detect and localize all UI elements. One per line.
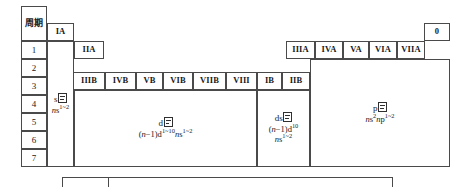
group-label-ivb: IVB (113, 76, 128, 86)
cjk-tofu-icon (283, 112, 292, 122)
period-header-label: 周期 (25, 18, 43, 28)
period-cell-1: 1 (21, 41, 47, 59)
group-label-zero: 0 (435, 27, 439, 37)
group-label-iva: IVA (322, 45, 337, 55)
block-config-p: ns2np1~2 (365, 115, 394, 125)
period-header-cell: 周期 (21, 6, 47, 41)
group-cell-viii: VIII (226, 72, 257, 90)
period-label-5: 5 (32, 117, 37, 127)
group-label-iiib: IIIB (81, 76, 97, 86)
bottom-bracket-divider (108, 178, 109, 187)
group-cell-vib: VIB (163, 72, 193, 90)
block-cell-d: d (n−1)d1~10ns1~2 (74, 90, 257, 167)
period-cell-5: 5 (21, 113, 47, 131)
block-cell-p: p ns2np1~2 (310, 59, 450, 167)
group-label-ia: IA (56, 27, 66, 37)
block-name-prefix-s: s (54, 94, 58, 104)
block-name-prefix-ds: ds (275, 113, 283, 123)
period-cell-6: 6 (21, 131, 47, 149)
block-config-d: (n−1)d1~10ns1~2 (139, 130, 193, 140)
period-cell-2: 2 (21, 59, 47, 77)
group-label-iia: IIA (82, 45, 95, 55)
group-label-vb: VB (143, 76, 155, 86)
period-label-4: 4 (32, 99, 37, 109)
period-label-1: 1 (32, 45, 37, 55)
group-cell-iva: IVA (315, 41, 343, 59)
group-cell-iiia: IIIA (286, 41, 315, 59)
group-cell-zero: 0 (424, 23, 450, 41)
group-label-via: VIA (375, 45, 391, 55)
block-name-ds: ds (275, 112, 293, 123)
period-label-2: 2 (32, 63, 37, 73)
group-cell-iib: IIB (282, 72, 310, 90)
group-cell-iia: IIA (74, 41, 104, 59)
group-cell-via: VIA (369, 41, 397, 59)
period-label-7: 7 (32, 153, 37, 163)
block-cell-ds: ds (n−1)d10 ns1~2 (257, 90, 310, 167)
block-config-ds-line2: ns1~2 (275, 135, 292, 145)
group-label-viii: VIII (233, 76, 249, 86)
group-label-viib: VIIB (200, 76, 219, 86)
group-cell-viib: VIIB (193, 72, 226, 90)
period-label-6: 6 (32, 135, 37, 145)
group-label-iiia: IIIA (292, 45, 308, 55)
cjk-tofu-icon (58, 93, 67, 103)
group-label-viia: VIIA (401, 45, 420, 55)
bottom-bracket (62, 177, 393, 187)
group-label-va: VA (350, 45, 361, 55)
group-cell-vb: VB (136, 72, 163, 90)
period-label-3: 3 (32, 81, 37, 91)
block-config-s: ns1~2 (52, 106, 69, 116)
period-cell-3: 3 (21, 77, 47, 95)
group-cell-ib: IB (257, 72, 282, 90)
group-cell-viia: VIIA (397, 41, 425, 59)
cjk-tofu-icon (378, 102, 387, 112)
group-cell-va: VA (343, 41, 369, 59)
group-cell-ia: IA (47, 23, 74, 41)
block-cell-s: s ns1~2 (47, 41, 74, 167)
group-label-vib: VIB (170, 76, 185, 86)
block-name-d: d (159, 117, 173, 128)
group-cell-iiib: IIIB (73, 72, 105, 90)
periodic-block-diagram: 周期 IA IIA 0 IIIA IVA VA VIA VIIA IIIB IV… (0, 0, 451, 187)
period-cell-4: 4 (21, 95, 47, 113)
period-cell-7: 7 (21, 149, 47, 167)
cjk-tofu-icon (164, 117, 173, 127)
group-label-iib: IIB (290, 76, 303, 86)
group-cell-ivb: IVB (105, 72, 136, 90)
block-name-s: s (54, 93, 67, 104)
group-label-ib: IB (265, 76, 274, 86)
